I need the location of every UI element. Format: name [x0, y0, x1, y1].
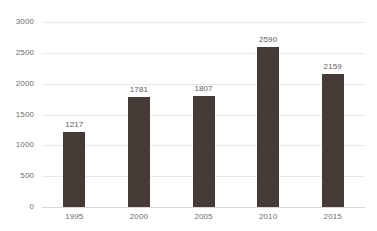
y-axis-tick-label: 3000: [0, 18, 34, 26]
plot-area: [42, 22, 365, 207]
x-axis-tick-label: 1995: [49, 213, 99, 221]
bar-value-label: 1217: [49, 121, 99, 129]
y-axis-tick-label: 500: [0, 172, 34, 180]
bar-value-label: 1781: [114, 86, 164, 94]
bar[interactable]: [322, 74, 344, 207]
bar[interactable]: [257, 47, 279, 207]
bar[interactable]: [193, 96, 215, 207]
y-axis-tick-label: 2000: [0, 80, 34, 88]
bar-value-label: 2159: [308, 63, 358, 71]
bar[interactable]: [128, 97, 150, 207]
cropped-chart-title: [0, 0, 377, 9]
x-axis-tick-label: 2005: [179, 213, 229, 221]
bar-chart: 300025002000150010005000 199520002005201…: [0, 0, 377, 231]
bar[interactable]: [63, 132, 85, 207]
y-axis-tick-label: 1500: [0, 111, 34, 119]
x-axis-tick-label: 2000: [114, 213, 164, 221]
x-axis-tick-label: 2015: [308, 213, 358, 221]
gridline: [42, 53, 365, 54]
bar-value-label: 2590: [243, 36, 293, 44]
y-axis-tick-label: 2500: [0, 49, 34, 57]
x-axis-tick-label: 2010: [243, 213, 293, 221]
bar-value-label: 1807: [179, 85, 229, 93]
y-axis-tick-label: 0: [0, 203, 34, 211]
gridline: [42, 207, 365, 208]
y-axis-tick-label: 1000: [0, 141, 34, 149]
gridline: [42, 22, 365, 23]
